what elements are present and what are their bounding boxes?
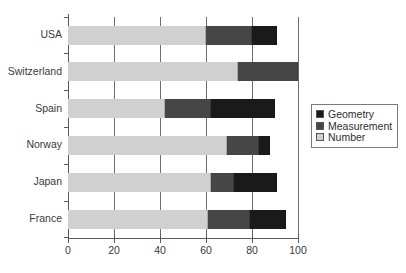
bar-segment-number (68, 99, 165, 118)
bar-segment-number (68, 62, 238, 81)
bar-segment-geometry (234, 173, 278, 192)
bar-segment-number (68, 210, 208, 229)
legend-label-number: Number (328, 132, 365, 143)
bar-segment-number (68, 173, 211, 192)
bar-row (68, 210, 286, 229)
bar-row (68, 26, 277, 45)
legend-swatch-measurement (316, 122, 324, 130)
bar-segment-number (68, 136, 227, 155)
bar-segment-geometry (250, 210, 287, 229)
bar-segment-measurement (208, 210, 249, 229)
x-axis-tick-label: 40 (154, 245, 166, 256)
category-label-norway: Norway (26, 139, 62, 150)
bar-row (68, 136, 270, 155)
x-axis-tick-label: 0 (65, 245, 71, 256)
bar-row (68, 62, 298, 81)
legend-swatch-geometry (316, 110, 324, 118)
x-axis-tick-label: 100 (289, 245, 307, 256)
legend-swatch-number (316, 133, 324, 141)
plot-area (68, 17, 298, 238)
category-label-japan: Japan (33, 176, 62, 187)
bar-row (68, 173, 277, 192)
legend-item-measurement: Measurement (316, 121, 392, 132)
bar-segment-geometry (211, 99, 275, 118)
category-label-switzerland: Switzerland (8, 66, 62, 77)
legend-item-geometry: Geometry (316, 109, 392, 120)
x-axis-line (68, 238, 299, 239)
chart-legend: Geometry Measurement Number (311, 104, 398, 148)
bar-segment-measurement (211, 173, 234, 192)
x-axis-tick-label: 60 (200, 245, 212, 256)
bar-segment-measurement (165, 99, 211, 118)
legend-item-number: Number (316, 132, 392, 143)
gridline (298, 17, 299, 238)
category-label-france: France (29, 213, 62, 224)
legend-label-measurement: Measurement (328, 121, 392, 132)
bar-segment-number (68, 26, 206, 45)
bar-segment-measurement (206, 26, 252, 45)
bar-segment-geometry (259, 136, 271, 155)
x-axis-tick-label: 80 (246, 245, 258, 256)
bar-row (68, 99, 275, 118)
category-label-spain: Spain (35, 103, 62, 114)
category-label-usa: USA (40, 29, 62, 40)
bar-segment-geometry (252, 26, 277, 45)
bar-segment-measurement (238, 62, 298, 81)
stacked-bar-chart: USASwitzerlandSpainNorwayJapanFrance 020… (0, 0, 406, 273)
x-axis-tick-label: 20 (108, 245, 120, 256)
bar-segment-measurement (227, 136, 259, 155)
legend-label-geometry: Geometry (328, 109, 374, 120)
